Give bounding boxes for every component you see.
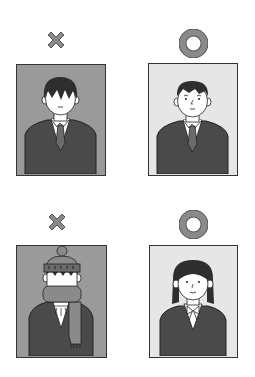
person-illustration [17,65,104,174]
circle-icon: Correct [179,29,208,58]
marker-label: Incorrect [46,233,47,234]
photo-frame [16,64,106,176]
marker-label: Correct [179,58,180,59]
person-illustration [150,246,236,356]
circle-icon: Correct [179,210,208,239]
person-illustration [149,64,236,174]
person-illustration [17,246,105,356]
cross-icon: Incorrect [45,29,67,51]
cross-icon: Incorrect [46,211,68,233]
photo-frame [16,245,107,358]
marker-label: Correct [179,239,180,240]
photo-frame [148,63,238,176]
marker-label: Incorrect [45,51,46,52]
photo-frame [149,245,238,358]
